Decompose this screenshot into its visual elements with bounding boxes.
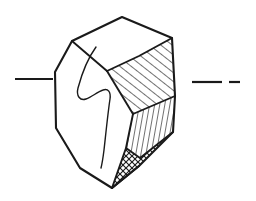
hex-nut-sketch: [0, 0, 256, 201]
drawing-canvas: Hexagonal Nut Freehand Sketch hex-nut Fr…: [0, 0, 256, 201]
